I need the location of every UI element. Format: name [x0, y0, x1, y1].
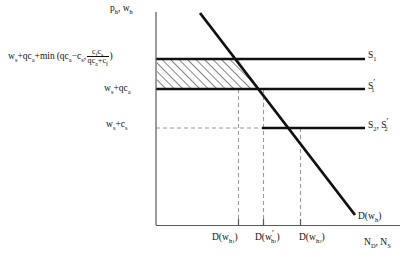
x-tick-label-2: D(w′h1) [255, 233, 280, 243]
y-axis-label: ph, wh [110, 4, 133, 14]
demand-curve [200, 13, 355, 215]
y-value-label-s1: ws+qca+min (qca−cs,cfcsqca+cf) [8, 48, 113, 65]
supply-demand-chart [0, 0, 410, 263]
y-value-label-s1-prime: ws+qca [104, 84, 131, 94]
curve-label-s1: S1 [368, 51, 377, 61]
x-axis-label: ND, NS [364, 238, 391, 248]
x-tick-label-3: D(wh2) [299, 233, 325, 243]
curve-label-demand: D(wh) [358, 212, 381, 222]
min-fraction: cfcsqca+cf [87, 48, 109, 65]
y-value-label-s2: ws+cs [106, 120, 127, 130]
x-tick-label-1: D(wh1) [212, 233, 238, 243]
curve-label-s1-prime: S′1 [368, 82, 375, 92]
curve-label-s2: S2, S′2 [368, 121, 388, 131]
